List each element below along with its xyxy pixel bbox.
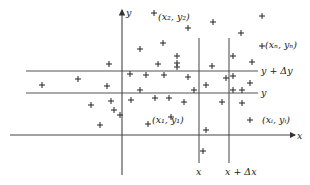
plus-marker-icon: [137, 87, 143, 93]
plus-marker-icon: [137, 46, 143, 52]
plus-marker-icon: [203, 127, 209, 133]
plus-marker-icon: [247, 117, 253, 123]
plus-marker-icon: [230, 73, 236, 79]
point-label: (x₁, y₁): [152, 114, 184, 125]
plus-marker-icon: [203, 82, 209, 88]
plus-marker-icon: [128, 97, 134, 103]
plus-marker-icon: [181, 99, 187, 105]
plus-marker-icon: [111, 107, 117, 113]
plus-marker-icon: [239, 87, 245, 93]
plus-marker-icon: [39, 82, 45, 88]
plus-marker-icon: [223, 75, 229, 81]
plus-marker-icon: [174, 53, 180, 59]
upper-band-label: y + Δy: [260, 65, 293, 76]
plus-marker-icon: [185, 74, 191, 80]
plus-marker-icon: [143, 72, 149, 78]
plus-marker-icon: [127, 71, 133, 77]
plus-marker-icon: [155, 61, 161, 67]
plus-marker-icon: [161, 72, 167, 78]
plus-marker-icon: [191, 87, 197, 93]
plus-marker-icon: [209, 63, 215, 69]
plus-marker-icon: [239, 100, 245, 106]
lower-band-label: y: [260, 87, 267, 98]
plus-marker-icon: [160, 40, 166, 46]
x-axis-label: x: [297, 130, 303, 141]
plus-marker-icon: [249, 59, 255, 65]
plus-marker-icon: [104, 83, 110, 89]
scatter-points: [39, 10, 265, 154]
plus-marker-icon: [259, 13, 265, 19]
plus-marker-icon: [151, 10, 157, 16]
plus-marker-icon: [166, 95, 172, 101]
plus-marker-icon: [210, 19, 216, 25]
plus-marker-icon: [75, 76, 81, 82]
plus-marker-icon: [230, 53, 236, 59]
plus-marker-icon: [97, 122, 103, 128]
plus-marker-icon: [145, 121, 151, 127]
plus-marker-icon: [88, 102, 94, 108]
plus-marker-icon: [185, 25, 191, 31]
point-label: (xₙ, yₙ): [265, 39, 297, 50]
plus-marker-icon: [174, 64, 180, 70]
plus-marker-icon: [106, 61, 112, 67]
point-label: (xᵢ, yᵢ): [262, 114, 290, 125]
left-vertical-label: x: [196, 166, 202, 177]
plus-marker-icon: [108, 98, 114, 104]
right-vertical-label: x + Δx: [225, 166, 257, 177]
plus-marker-icon: [219, 99, 225, 105]
plus-marker-icon: [152, 95, 158, 101]
plus-marker-icon: [247, 80, 253, 86]
plus-marker-icon: [238, 30, 244, 36]
plus-marker-icon: [230, 87, 236, 93]
point-label: (x₂, y₂): [158, 11, 190, 22]
y-axis-label: y: [125, 7, 132, 18]
plus-marker-icon: [200, 148, 206, 154]
diagram-canvas: y x y + Δy y x x + Δx (x₂, y₂)(xₙ, yₙ)(x…: [0, 0, 310, 185]
